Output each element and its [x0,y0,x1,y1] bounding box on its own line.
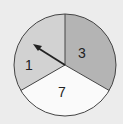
section-label-1: 1 [25,57,33,73]
section-label-7: 7 [58,84,66,100]
section-label-3: 3 [78,45,86,61]
spinner-diagram: 3 7 1 [0,0,123,124]
